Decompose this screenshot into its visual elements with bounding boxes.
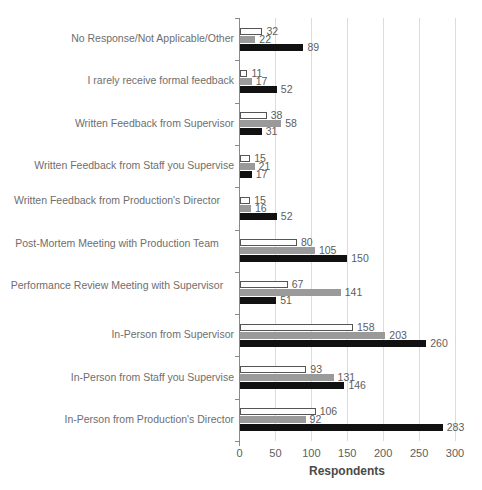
bar-series-1-1	[240, 70, 248, 77]
bar-series-1-2	[240, 112, 267, 119]
bar-series-2-9	[240, 416, 306, 423]
bar-value-label: 150	[351, 253, 369, 264]
y-axis-tick	[235, 60, 239, 61]
category-label: No Response/Not Applicable/Other	[0, 32, 234, 45]
bar-series-3-9	[240, 424, 443, 431]
bar-series-2-7	[240, 332, 386, 339]
bar-series-2-0	[240, 36, 256, 43]
bar-series-2-5	[240, 247, 315, 254]
category-label: Performance Review Meeting with Supervis…	[0, 279, 234, 292]
bar-value-label: 51	[280, 295, 292, 306]
bar-value-label: 106	[320, 406, 338, 417]
category-label: Written Feedback from Staff you Supervis…	[0, 159, 234, 172]
bar-chart: No Response/Not Applicable/OtherI rarely…	[0, 0, 482, 490]
category-label: Written Feedback from Supervisor	[0, 117, 234, 130]
x-tick-label-150: 150	[327, 447, 367, 459]
category-label: In-Person from Staff you Supervise	[0, 371, 234, 384]
gridline-250	[419, 18, 420, 441]
bar-value-label: 260	[430, 338, 448, 349]
y-axis-tick	[235, 356, 239, 357]
y-axis-tick	[235, 187, 239, 188]
bar-value-label: 89	[307, 42, 319, 53]
x-tick-label-0: 0	[220, 447, 260, 459]
category-label: I rarely receive formal feedback	[0, 74, 234, 87]
bar-value-label: 146	[348, 380, 366, 391]
bar-series-2-1	[240, 78, 252, 85]
x-tick-label-50: 50	[255, 447, 295, 459]
bar-series-3-7	[240, 340, 427, 347]
bar-series-3-6	[240, 297, 277, 304]
bar-value-label: 17	[256, 169, 268, 180]
bar-series-1-9	[240, 408, 316, 415]
bar-value-label: 141	[345, 287, 363, 298]
category-label: In-Person from Supervisor	[0, 328, 234, 341]
bar-series-3-0	[240, 44, 304, 51]
category-labels: No Response/Not Applicable/OtherI rarely…	[0, 0, 234, 490]
y-axis-tick	[235, 441, 239, 442]
bar-series-2-8	[240, 374, 334, 381]
category-label: Post-Mortem Meeting with Production Team	[0, 237, 234, 250]
bar-series-3-1	[240, 86, 277, 93]
x-tick-label-300: 300	[435, 447, 475, 459]
bar-series-3-4	[240, 213, 277, 220]
bar-series-1-6	[240, 281, 288, 288]
y-axis-tick	[235, 230, 239, 231]
x-tick-label-250: 250	[399, 447, 439, 459]
gridline-200	[383, 18, 384, 441]
bar-series-1-8	[240, 366, 307, 373]
bar-series-2-4	[240, 205, 251, 212]
bar-series-3-2	[240, 128, 262, 135]
y-axis-tick	[235, 145, 239, 146]
bar-series-3-5	[240, 255, 348, 262]
bar-series-1-7	[240, 324, 353, 331]
y-axis-base-tick	[239, 441, 240, 446]
y-axis-tick	[235, 399, 239, 400]
bar-value-label: 52	[281, 211, 293, 222]
bar-value-label: 58	[285, 118, 297, 129]
y-axis-tick	[235, 18, 239, 19]
y-axis-tick	[235, 103, 239, 104]
category-label: Written Feedback from Production's Direc…	[0, 194, 234, 207]
bar-series-1-4	[240, 197, 251, 204]
bar-series-1-3	[240, 155, 251, 162]
bar-series-3-3	[240, 171, 252, 178]
y-axis-tick	[235, 272, 239, 273]
x-axis-title: Respondents	[239, 464, 455, 478]
x-tick-label-200: 200	[363, 447, 403, 459]
bar-value-label: 283	[447, 422, 465, 433]
bar-series-1-5	[240, 239, 297, 246]
x-tick-label-100: 100	[291, 447, 331, 459]
y-axis-tick	[235, 314, 239, 315]
gridline-300	[455, 18, 456, 441]
bar-value-label: 52	[281, 84, 293, 95]
bar-value-label: 31	[266, 126, 278, 137]
bar-series-2-3	[240, 163, 255, 170]
bar-series-3-8	[240, 382, 345, 389]
category-label: In-Person from Production's Director	[0, 413, 234, 426]
